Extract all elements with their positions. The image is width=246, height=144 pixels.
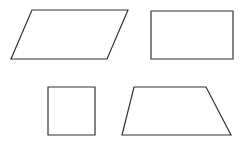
shapes-diagram xyxy=(0,0,246,144)
parallelogram-shape xyxy=(11,10,128,59)
rectangle-shape xyxy=(151,11,233,59)
trapezoid-shape xyxy=(122,87,231,135)
square-shape xyxy=(48,87,95,135)
